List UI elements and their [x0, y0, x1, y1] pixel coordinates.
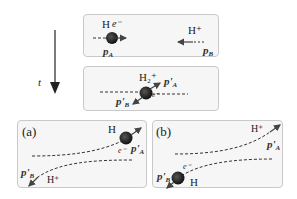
momentum-b-label: pB — [202, 44, 214, 58]
electron-label: e⁻ — [152, 91, 160, 99]
outcome-a: (a) H e⁻ p'A H⁺ p'B — [20, 123, 145, 186]
electron-label: e⁻ — [183, 162, 192, 171]
tag-b: (b) — [156, 124, 171, 139]
momentum-bottom-label: p'B — [156, 170, 171, 184]
particle-bottom-label: H⁺ — [47, 174, 59, 185]
time-label: t — [38, 76, 42, 88]
momentum-b-prime-label: p'B — [115, 95, 130, 109]
particle-top-label: H — [108, 123, 116, 135]
momentum-top-label: p'A — [266, 138, 281, 152]
particle-top-label: H⁺ — [251, 123, 263, 134]
outcome-b: (b) H⁺ p'A e⁻ H p'B — [156, 123, 281, 188]
momentum-top-label: p'A — [130, 142, 145, 156]
time-arrow — [50, 30, 60, 94]
momentum-bottom-label: p'B — [20, 166, 35, 180]
molecule-label: H₂⁺ — [139, 71, 157, 83]
collision-state: H₂⁺ e⁻ p'A p'B — [100, 71, 188, 109]
collision-diagram: t H e⁻ pA H⁺ pB H₂⁺ e⁻ p'A p'B (a) H e⁻ … — [0, 0, 297, 199]
tag-a: (a) — [22, 124, 36, 139]
momentum-a-label: pA — [102, 45, 114, 59]
momentum-a-prime-label: p'A — [163, 75, 178, 89]
electron-label: e⁻ — [118, 146, 127, 155]
particle-b-label: H⁺ — [188, 24, 202, 36]
particle-bottom-label: H — [190, 176, 198, 188]
electron-label: e⁻ — [112, 18, 122, 29]
initial-state: H e⁻ pA H⁺ pB — [93, 18, 214, 59]
particle-a-label: H — [102, 18, 110, 30]
